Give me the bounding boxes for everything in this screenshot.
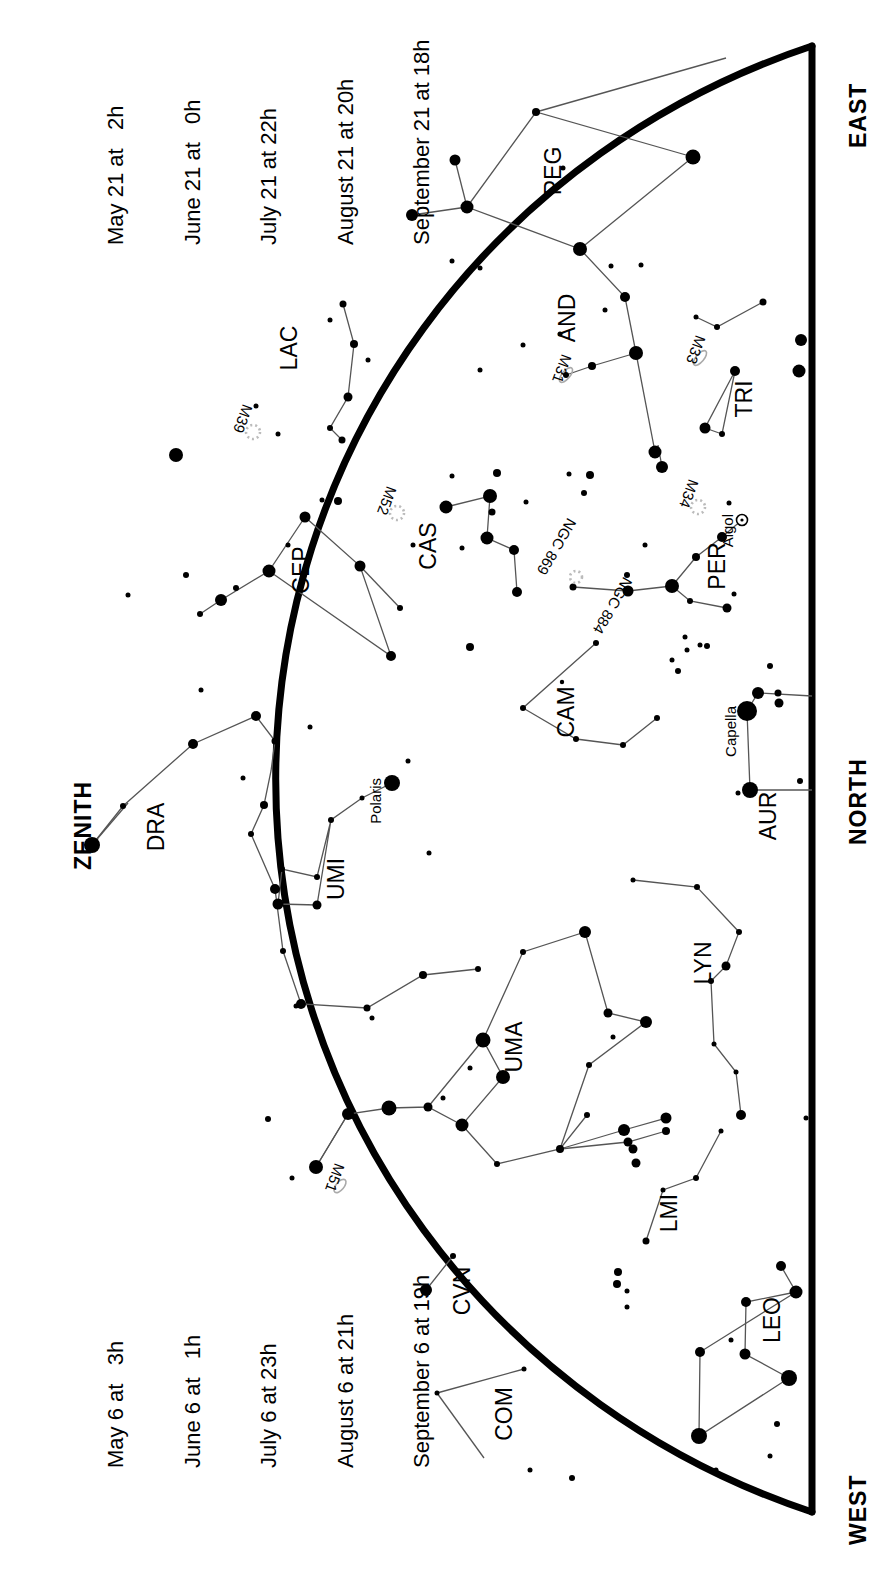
star bbox=[693, 1175, 699, 1181]
star bbox=[248, 831, 254, 837]
star bbox=[478, 266, 483, 271]
constellation-lines bbox=[92, 58, 812, 1458]
line-dra bbox=[92, 716, 478, 1008]
star bbox=[611, 1035, 616, 1040]
label-lyn: LYN bbox=[690, 941, 716, 984]
star bbox=[360, 796, 365, 801]
line-m33-arm bbox=[696, 302, 763, 327]
star bbox=[272, 738, 279, 745]
star bbox=[656, 461, 668, 473]
star bbox=[263, 565, 276, 578]
star bbox=[468, 1066, 473, 1071]
star bbox=[450, 259, 455, 264]
label-aur: AUR bbox=[755, 792, 781, 841]
star bbox=[522, 1367, 527, 1372]
star bbox=[509, 545, 519, 555]
star bbox=[729, 1338, 734, 1343]
legend-top-row-1: June 21 at 0h bbox=[180, 40, 206, 245]
star bbox=[588, 362, 596, 370]
star bbox=[629, 1145, 638, 1154]
star bbox=[714, 1468, 719, 1473]
star bbox=[308, 725, 313, 730]
star bbox=[397, 605, 403, 611]
star bbox=[197, 611, 203, 617]
star bbox=[280, 948, 286, 954]
star bbox=[683, 635, 688, 640]
star bbox=[427, 851, 432, 856]
star bbox=[695, 1347, 705, 1357]
line-uma-body-a bbox=[462, 1115, 587, 1164]
star bbox=[685, 648, 690, 653]
label-umi: UMI bbox=[323, 858, 349, 900]
star bbox=[662, 1127, 670, 1135]
star bbox=[643, 1238, 650, 1245]
label-uma: UMA bbox=[501, 1021, 527, 1073]
line-lyn bbox=[633, 880, 741, 1115]
star bbox=[520, 705, 526, 711]
star bbox=[692, 553, 700, 561]
star bbox=[767, 663, 773, 669]
star bbox=[694, 315, 699, 320]
line-cep-c bbox=[360, 566, 400, 608]
star bbox=[694, 884, 700, 890]
legend-top-row-3: August 21 at 20h bbox=[333, 40, 359, 245]
star bbox=[370, 1016, 375, 1021]
label-dra: DRA bbox=[143, 802, 169, 851]
star bbox=[620, 292, 630, 302]
star bbox=[613, 1280, 621, 1288]
star bbox=[524, 500, 529, 505]
star bbox=[556, 1145, 564, 1153]
label-capella: Capella bbox=[722, 705, 739, 757]
star bbox=[386, 651, 396, 661]
star bbox=[521, 343, 526, 348]
star bbox=[579, 926, 591, 938]
star bbox=[366, 358, 371, 363]
star bbox=[734, 1070, 739, 1075]
star bbox=[736, 1110, 746, 1120]
star bbox=[793, 365, 806, 378]
star bbox=[584, 1112, 590, 1118]
star bbox=[476, 1033, 491, 1048]
star bbox=[475, 966, 481, 972]
label-m52: M52 bbox=[374, 484, 400, 517]
label-polaris: Polaris bbox=[367, 778, 384, 824]
star bbox=[339, 437, 346, 444]
cardinal-east: EAST bbox=[845, 83, 872, 148]
legend-bottom-row-2: July 6 at 23h bbox=[256, 1275, 282, 1468]
line-m51-arm bbox=[316, 1114, 348, 1167]
star bbox=[126, 593, 131, 598]
label-lac: LAC bbox=[276, 326, 302, 371]
star bbox=[279, 866, 285, 872]
star bbox=[342, 1108, 354, 1120]
star bbox=[730, 366, 740, 376]
star bbox=[493, 469, 501, 477]
line-lac bbox=[330, 304, 354, 440]
star bbox=[661, 1188, 666, 1193]
star bbox=[489, 509, 496, 516]
star bbox=[334, 497, 342, 505]
star bbox=[215, 594, 227, 606]
label-per: PER bbox=[704, 542, 730, 589]
star bbox=[722, 962, 731, 971]
label-m51: M51 bbox=[322, 1161, 348, 1194]
line-aur-a bbox=[747, 693, 812, 790]
star bbox=[340, 301, 347, 308]
cardinal-west: WEST bbox=[845, 1475, 872, 1545]
star bbox=[719, 431, 725, 437]
star bbox=[483, 489, 497, 503]
star bbox=[520, 949, 526, 955]
star bbox=[294, 1004, 299, 1009]
star bbox=[460, 546, 465, 551]
star bbox=[276, 432, 281, 437]
star bbox=[441, 1096, 446, 1101]
star bbox=[620, 742, 626, 748]
star bbox=[424, 1103, 433, 1112]
star-polaris bbox=[384, 775, 400, 791]
star bbox=[776, 1261, 786, 1271]
star bbox=[382, 1101, 397, 1116]
star bbox=[450, 474, 455, 479]
cluster-ngc869-icon bbox=[570, 571, 582, 583]
star bbox=[629, 346, 643, 360]
star bbox=[309, 1160, 323, 1174]
star bbox=[273, 899, 284, 910]
